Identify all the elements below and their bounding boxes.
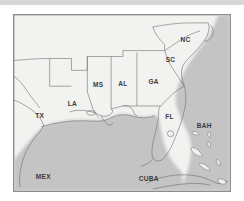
label-mex: MEX (36, 173, 51, 180)
top-grey-strip (0, 0, 244, 5)
label-al: AL (118, 80, 127, 87)
label-sc: SC (166, 56, 176, 63)
label-bah: BAH (197, 122, 212, 129)
map-graphic: TX LA MS AL GA SC NC FL BAH MEX CUBA (14, 15, 230, 191)
label-tx: TX (35, 112, 44, 119)
label-ga: GA (149, 78, 159, 85)
label-nc: NC (180, 36, 190, 43)
map-frame: TX LA MS AL GA SC NC FL BAH MEX CUBA (13, 14, 231, 192)
label-fl: FL (165, 113, 174, 120)
label-cuba: CUBA (139, 175, 159, 182)
label-la: LA (68, 100, 77, 107)
label-ms: MS (93, 81, 104, 88)
